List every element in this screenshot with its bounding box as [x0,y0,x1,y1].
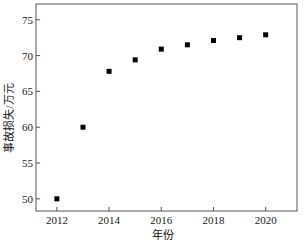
data-points [54,32,268,201]
scatter-chart: 505560657075 20122014201620182020 年份 事故损… [0,0,304,243]
y-tick-label: 75 [22,14,34,26]
data-point-marker [54,196,59,201]
data-point-marker [237,35,242,40]
data-point-marker [185,42,190,47]
x-tick-label: 2014 [98,214,121,226]
plot-frame [36,4,297,211]
x-tick-label: 2016 [150,214,173,226]
y-tick-label: 65 [22,85,34,97]
x-tick-label: 2020 [255,214,278,226]
data-point-marker [159,47,164,52]
x-tick-label: 2012 [46,214,68,226]
y-tick-label: 70 [22,50,34,62]
data-point-marker [80,125,85,130]
y-tick-label: 55 [22,157,34,169]
y-axis-ticks: 505560657075 [22,14,40,205]
data-point-marker [133,57,138,62]
y-tick-label: 60 [22,121,34,133]
x-tick-label: 2018 [202,214,225,226]
y-tick-label: 50 [22,193,34,205]
data-point-marker [263,32,268,37]
x-axis-title: 年份 [152,228,174,241]
data-point-marker [211,38,216,43]
y-axis-title: 事故损失/万元 [2,83,15,152]
x-axis-ticks: 20122014201620182020 [46,207,277,226]
data-point-marker [107,69,112,74]
